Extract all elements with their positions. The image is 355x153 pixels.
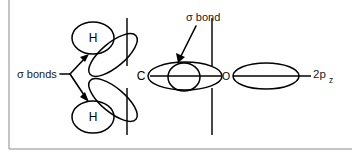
sigma-bonds-arrow-lower-head [80,92,89,102]
two-p-z-label-base: 2p [313,68,326,80]
atom-label-carbon: C [137,69,146,83]
orbital-diagram-canvas: H H C O 2p z σ bonds σ [0,0,355,153]
sigma-bond-label: σ bond [186,11,220,23]
diagram-svg: H H C O 2p z σ bonds σ [0,0,355,153]
atom-label-hydrogen-lower: H [89,110,98,124]
sigma-overlap-orbital [168,63,200,91]
atom-label-oxygen: O [222,70,230,82]
sigma-bond-arrow-shaft [180,26,196,58]
atom-label-hydrogen-upper: H [89,31,98,45]
sigma-bonds-label: σ bonds [17,68,57,80]
two-p-z-label-subscript: z [329,75,333,85]
